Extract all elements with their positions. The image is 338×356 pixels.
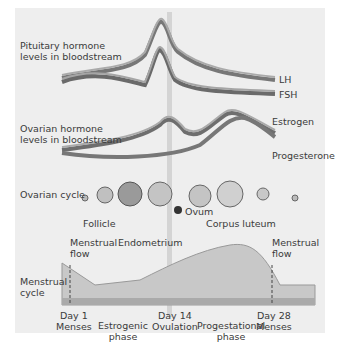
estrogen-label: Estrogen <box>272 116 314 127</box>
follicle-stage-4 <box>148 182 172 206</box>
menstrual-flow-label-1: Menstrualflow <box>70 237 117 259</box>
endometrium-label: Endometrium <box>118 237 183 248</box>
menstrual-flow-label-2: Menstrualflow <box>272 237 319 259</box>
ovum <box>174 206 182 214</box>
follicle-new <box>292 195 298 201</box>
fsh-label: FSH <box>279 89 297 100</box>
follicle-stage-2 <box>97 187 113 203</box>
corpus-luteum-stage-1 <box>189 185 211 207</box>
day28-label: Day 28Menses <box>256 310 292 332</box>
corpus-luteum-stage-2 <box>217 181 243 207</box>
estrogenic-phase-label: Estrogenicphase <box>98 320 148 342</box>
corpus-luteum-stage-3 <box>257 188 269 200</box>
corpus-luteum-label: Corpus luteum <box>206 218 276 229</box>
follicle-label: Follicle <box>83 218 116 229</box>
progestational-phase-label: Progestationalphase <box>197 320 265 342</box>
ovum-label: Ovum <box>185 206 213 217</box>
ovarian-hormone-label: Ovarian hormonelevels in bloodstream <box>20 123 122 145</box>
progesterone-label: Progesterone <box>272 150 335 161</box>
day14-label: Day 14Ovulation <box>152 310 198 332</box>
menstrual-cycle-label: Menstrualcycle <box>20 276 67 298</box>
lh-label: LH <box>279 74 291 85</box>
endometrium-base <box>62 298 315 305</box>
pituitary-label: Pituitary hormonelevels in bloodstream <box>20 40 122 62</box>
day1-label: Day 1Menses <box>56 310 92 332</box>
follicle-stage-3 <box>118 182 142 206</box>
ovarian-cycle-label: Ovarian cycle <box>20 189 85 200</box>
